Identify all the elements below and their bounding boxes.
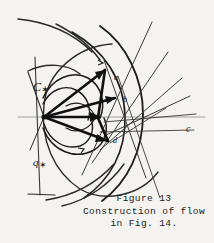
label-c-right: c xyxy=(186,123,190,134)
caption-line-3: in Fig. 14. xyxy=(74,218,214,231)
label-c-star: C✶ xyxy=(33,80,49,95)
apex-node xyxy=(41,114,46,119)
outer-circle-arc xyxy=(43,44,158,196)
label-point-a: a xyxy=(114,73,118,82)
caption-line-2: Construction of flow xyxy=(74,206,214,219)
label-point-b: b xyxy=(123,95,127,104)
baseline-tick xyxy=(28,194,55,195)
q-star-asterisk-icon: ✶ xyxy=(39,160,47,170)
shock-front-arc xyxy=(100,26,143,201)
ray-from-d-upper xyxy=(110,108,166,143)
c-star-asterisk-icon: ✶ xyxy=(41,84,49,95)
figure-caption: Figure 13 Construction of flow in Fig. 1… xyxy=(74,193,214,231)
outer-sweep-arc-upper xyxy=(18,19,92,52)
label-q-star: q✶ xyxy=(33,156,47,170)
arc-tick-upper xyxy=(98,60,103,65)
label-point-d: d xyxy=(113,136,117,145)
vertical-chord-line xyxy=(35,57,40,195)
figure-page: C✶ q✶ c a b d Figure 13 Construction of … xyxy=(0,0,214,243)
arc-tick-lower xyxy=(78,148,84,153)
caption-line-1: Figure 13 xyxy=(74,193,214,206)
